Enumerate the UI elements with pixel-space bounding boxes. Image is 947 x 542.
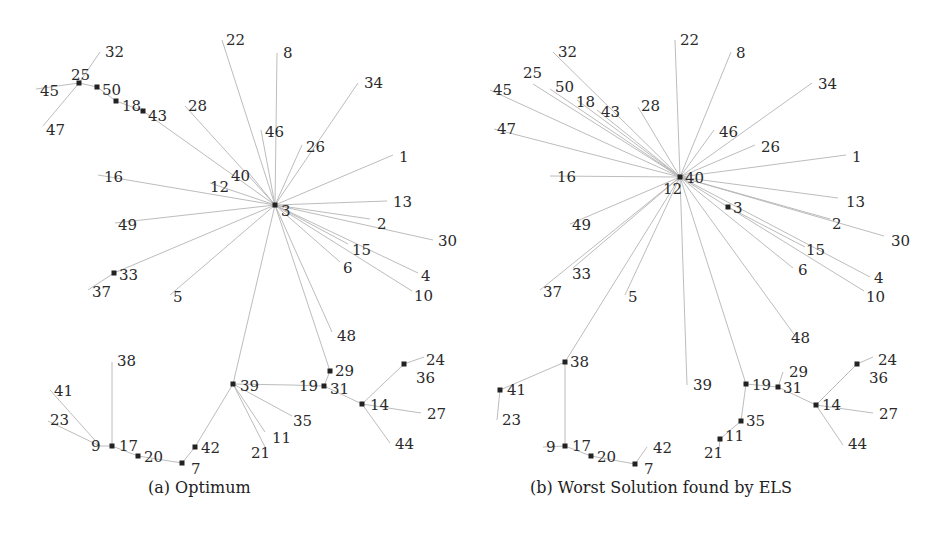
node-label-15: 15 [352,241,371,259]
node-label-48: 48 [337,327,356,345]
edge-3-13 [275,201,387,205]
node-marker-icon [141,109,146,114]
node-label-25: 25 [71,66,90,84]
node-label-12: 12 [210,178,229,196]
node-label-26: 26 [306,138,325,156]
node-label-32: 32 [558,43,577,61]
node-label-27: 27 [879,405,898,423]
node-marker-icon [322,384,327,389]
node-label-8: 8 [283,44,293,62]
node-label-45: 45 [493,81,512,99]
node-label-6: 6 [798,261,808,279]
node-label-6: 6 [343,259,353,277]
node-label-44: 44 [848,435,867,453]
node-marker-icon [114,99,119,104]
node-label-9: 9 [546,438,556,456]
node-label-43: 43 [601,103,620,121]
node-label-37: 37 [92,283,111,301]
node-label-31: 31 [783,379,802,397]
node-label-9: 9 [91,437,101,455]
node-label-40: 40 [231,167,250,185]
node-label-21: 21 [704,444,723,462]
node-marker-icon [739,419,744,424]
node-label-47: 47 [46,121,65,139]
node-label-33: 33 [572,265,591,283]
node-label-50: 50 [555,78,574,96]
node-label-37: 37 [543,283,562,301]
node-label-39: 39 [240,377,259,395]
node-label-13: 13 [846,193,865,211]
node-label-2: 2 [832,215,842,233]
node-label-19: 19 [299,377,318,395]
edge-40-47 [494,129,680,177]
caption-worst-solution: (b) Worst Solution found by ELS [530,478,792,497]
node-label-8: 8 [736,44,746,62]
edge-3-1 [275,155,393,205]
node-label-46: 46 [265,123,284,141]
node-label-1: 1 [399,148,409,166]
node-label-5: 5 [628,288,638,306]
node-marker-icon [193,445,198,450]
node-label-5: 5 [173,288,183,306]
node-label-24: 24 [426,351,445,369]
node-label-48: 48 [791,329,810,347]
node-label-50: 50 [102,81,121,99]
node-label-16: 16 [104,168,123,186]
node-label-38: 38 [117,352,136,370]
panel-a-node-labels: 1234567891011121314151617181920212223242… [40,31,457,478]
node-marker-icon [855,362,860,367]
node-marker-icon [563,360,568,365]
edge-3-5 [170,205,275,295]
edge-40-39 [680,177,687,385]
node-label-45: 45 [40,82,59,100]
node-label-20: 20 [597,448,616,466]
edge-39-42 [195,384,233,447]
node-label-49: 49 [572,216,591,234]
node-marker-icon [273,203,278,208]
node-label-7: 7 [644,460,654,478]
node-label-43: 43 [148,107,167,125]
node-marker-icon [498,388,503,393]
node-label-34: 34 [364,74,383,92]
node-label-28: 28 [641,97,660,115]
node-marker-icon [814,403,819,408]
node-marker-icon [112,271,117,276]
node-marker-icon [563,444,568,449]
node-marker-icon [360,402,365,407]
node-label-18: 18 [122,97,141,115]
node-label-47: 47 [497,120,516,138]
node-label-33: 33 [119,266,138,284]
edge-41-23 [497,390,500,420]
edge-3-10 [728,207,864,291]
node-label-36: 36 [416,369,435,387]
edge-40-34 [680,83,812,177]
node-label-4: 4 [874,269,884,287]
node-label-35: 35 [746,412,765,430]
node-marker-icon [231,382,236,387]
node-label-41: 41 [54,382,73,400]
node-label-23: 23 [50,411,69,429]
node-label-35: 35 [293,412,312,430]
node-label-10: 10 [866,288,885,306]
edge-3-33 [114,205,275,273]
node-label-32: 32 [105,43,124,61]
node-label-42: 42 [653,439,672,457]
node-label-18: 18 [576,93,595,111]
panel-worst-solution: 1234567891011121314151617181920212223242… [490,31,910,478]
node-label-14: 14 [370,396,389,414]
node-label-34: 34 [818,75,837,93]
edge-3-48 [275,205,332,332]
edge-3-26 [275,145,302,205]
node-label-3: 3 [733,199,743,217]
node-label-44: 44 [395,435,414,453]
node-label-22: 22 [226,31,245,49]
node-marker-icon [95,85,100,90]
node-label-17: 17 [572,437,591,455]
node-label-28: 28 [188,97,207,115]
node-label-26: 26 [761,138,780,156]
node-label-2: 2 [377,215,387,233]
node-label-36: 36 [869,369,888,387]
node-label-15: 15 [806,241,825,259]
node-label-46: 46 [719,123,738,141]
node-label-31: 31 [330,380,349,398]
